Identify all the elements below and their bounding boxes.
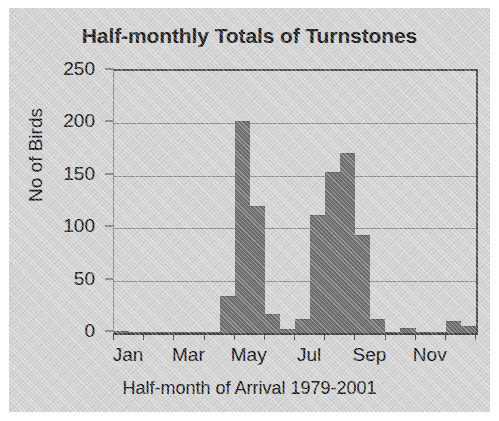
- x-tick-mark: [294, 333, 295, 340]
- y-tick-mark: [105, 121, 113, 122]
- y-tick-mark: [105, 226, 113, 227]
- bar[interactable]: [250, 206, 265, 333]
- x-tick-mark: [113, 333, 114, 340]
- x-tick-label: Mar: [172, 344, 205, 366]
- bar[interactable]: [325, 172, 340, 333]
- x-axis-title: Half-month of Arrival 1979-2001: [9, 378, 490, 399]
- bar-slot: [310, 71, 325, 333]
- bar-slot: [144, 71, 159, 333]
- bar-slot: [325, 71, 340, 333]
- x-tick-mark: [264, 333, 265, 340]
- bar-slot: [385, 71, 400, 333]
- bar[interactable]: [220, 296, 235, 333]
- x-tick-mark: [415, 333, 416, 340]
- bar[interactable]: [310, 215, 325, 333]
- bar[interactable]: [340, 153, 355, 333]
- bar-series: [114, 71, 476, 333]
- bar[interactable]: [235, 121, 250, 333]
- bar-slot: [280, 71, 295, 333]
- bar-slot: [265, 71, 280, 333]
- x-tick-mark: [324, 333, 325, 340]
- y-tick-label: 250: [63, 58, 95, 80]
- bar-slot: [250, 71, 265, 333]
- y-tick-label: 200: [63, 110, 95, 132]
- x-tick-mark: [354, 333, 355, 340]
- bar-slot: [400, 71, 415, 333]
- bar-slot: [159, 71, 174, 333]
- x-tick-label: Jul: [297, 344, 321, 366]
- y-tick-mark: [105, 278, 113, 279]
- bar[interactable]: [370, 319, 385, 333]
- y-tick-mark: [105, 173, 113, 174]
- x-tick-label: May: [231, 344, 267, 366]
- bar-slot: [114, 71, 129, 333]
- bar-slot: [174, 71, 189, 333]
- y-tick-label: 150: [63, 163, 95, 185]
- y-tick-label: 100: [63, 215, 95, 237]
- y-tick-label: 50: [74, 268, 95, 290]
- x-tick-mark: [385, 333, 386, 340]
- x-axis-tick-marks: [113, 333, 475, 341]
- bar-slot: [340, 71, 355, 333]
- x-tick-mark: [143, 333, 144, 340]
- y-tick-mark: [105, 69, 113, 70]
- y-tick-mark: [105, 331, 113, 332]
- bar-slot: [295, 71, 310, 333]
- x-tick-mark: [445, 333, 446, 340]
- bar-slot: [355, 71, 370, 333]
- y-axis-labels: 050100150200250: [9, 69, 105, 331]
- y-tick-label: 0: [84, 320, 95, 342]
- chart-title: Half-monthly Totals of Turnstones: [9, 24, 490, 48]
- bar-slot: [446, 71, 461, 333]
- bar-slot: [129, 71, 144, 333]
- x-tick-label: Nov: [413, 344, 447, 366]
- x-tick-label: Sep: [353, 344, 387, 366]
- chart-figure: Half-monthly Totals of Turnstones No of …: [9, 8, 490, 412]
- plot-area: [113, 69, 478, 335]
- x-tick-mark: [204, 333, 205, 340]
- x-tick-mark: [173, 333, 174, 340]
- x-axis-labels: JanMarMayJulSepNov: [113, 344, 475, 370]
- bar-slot: [416, 71, 431, 333]
- x-tick-label: Jan: [113, 344, 144, 366]
- bar-slot: [370, 71, 385, 333]
- bar-slot: [189, 71, 204, 333]
- bar[interactable]: [446, 321, 461, 333]
- bar-slot: [204, 71, 219, 333]
- bar[interactable]: [295, 319, 310, 333]
- bar[interactable]: [461, 326, 476, 333]
- bar-slot: [235, 71, 250, 333]
- bar-slot: [431, 71, 446, 333]
- bar[interactable]: [355, 235, 370, 334]
- bar-slot: [461, 71, 476, 333]
- bar[interactable]: [265, 314, 280, 333]
- bar-slot: [220, 71, 235, 333]
- x-tick-mark: [234, 333, 235, 340]
- x-tick-mark: [475, 333, 476, 340]
